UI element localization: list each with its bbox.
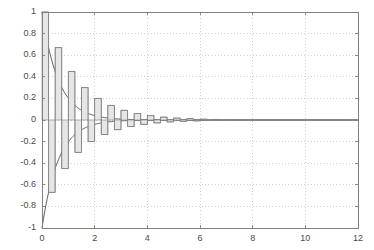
- x-tick-label: 8: [233, 234, 273, 243]
- x-tick-label: 2: [75, 234, 115, 243]
- y-tick-label: -0.8: [0, 201, 36, 210]
- y-tick-label: 1: [0, 7, 36, 16]
- x-tick-label: 12: [338, 234, 374, 243]
- y-tick-label: 0.6: [0, 50, 36, 59]
- x-tick-label: 0: [22, 234, 62, 243]
- y-tick-label: 0.8: [0, 29, 36, 38]
- chart-figure: -1-0.8-0.6-0.4-0.200.20.40.60.81 0246810…: [0, 0, 374, 250]
- plot-canvas: [0, 0, 374, 250]
- x-tick-label: 4: [127, 234, 167, 243]
- x-tick-label: 6: [180, 234, 220, 243]
- y-tick-label: -0.2: [0, 137, 36, 146]
- y-tick-label: -0.4: [0, 158, 36, 167]
- x-tick-label: 10: [285, 234, 325, 243]
- y-tick-label: 0.2: [0, 93, 36, 102]
- y-tick-label: 0.4: [0, 72, 36, 81]
- y-tick-label: 0: [0, 115, 36, 124]
- y-tick-label: -0.6: [0, 180, 36, 189]
- y-tick-label: -1: [0, 223, 36, 232]
